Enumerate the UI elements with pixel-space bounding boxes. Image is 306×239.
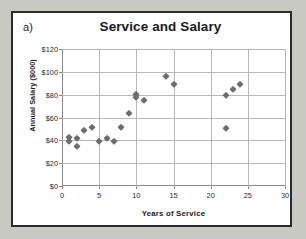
- y-tick-mark: [59, 118, 62, 119]
- data-point: [222, 125, 228, 131]
- x-gridline: [248, 49, 249, 186]
- x-tick-label: 25: [244, 191, 252, 200]
- data-point: [237, 81, 243, 87]
- data-point: [81, 127, 87, 133]
- x-tick-mark: [211, 186, 212, 189]
- data-point: [96, 138, 102, 144]
- chart-title: Service and Salary: [13, 19, 290, 34]
- data-point: [66, 138, 72, 144]
- x-tick-label: 10: [132, 191, 140, 200]
- y-tick-label: $20: [46, 159, 58, 168]
- y-axis-title: Annual Salary ($000): [28, 36, 37, 156]
- data-point: [88, 123, 94, 129]
- y-tick-label: $40: [46, 136, 58, 145]
- plot-area: $0$20$40$60$80$100$120051015202530: [62, 49, 285, 186]
- page-background: a) Service and Salary Annual Salary ($00…: [0, 0, 306, 239]
- x-tick-label: 20: [207, 191, 215, 200]
- y-tick-mark: [59, 72, 62, 73]
- x-axis-title: Years of Service: [62, 209, 285, 218]
- y-tick-label: $0: [50, 182, 58, 191]
- y-tick-label: $120: [42, 45, 58, 54]
- data-point: [141, 97, 147, 103]
- x-tick-mark: [248, 186, 249, 189]
- x-tick-mark: [99, 186, 100, 189]
- x-tick-mark: [62, 186, 63, 189]
- x-tick-label: 5: [97, 191, 101, 200]
- x-tick-mark: [174, 186, 175, 189]
- x-gridline: [285, 49, 286, 186]
- data-point: [126, 110, 132, 116]
- x-tick-mark: [136, 186, 137, 189]
- x-gridline: [136, 49, 137, 186]
- data-point: [170, 81, 176, 87]
- x-gridline: [211, 49, 212, 186]
- y-tick-mark: [59, 95, 62, 96]
- x-tick-label: 15: [169, 191, 177, 200]
- data-point: [163, 73, 169, 79]
- x-tick-label: 30: [281, 191, 289, 200]
- y-tick-mark: [59, 163, 62, 164]
- x-tick-mark: [285, 186, 286, 189]
- y-tick-label: $60: [46, 113, 58, 122]
- data-point: [230, 86, 236, 92]
- y-tick-mark: [59, 49, 62, 50]
- y-tick-label: $100: [42, 67, 58, 76]
- x-gridline: [174, 49, 175, 186]
- chart-panel: a) Service and Salary Annual Salary ($00…: [11, 11, 292, 227]
- data-point: [222, 91, 228, 97]
- data-point: [111, 138, 117, 144]
- y-tick-mark: [59, 140, 62, 141]
- x-tick-label: 0: [60, 191, 64, 200]
- x-gridline: [99, 49, 100, 186]
- y-tick-label: $80: [46, 90, 58, 99]
- data-point: [74, 143, 80, 149]
- data-point: [118, 123, 124, 129]
